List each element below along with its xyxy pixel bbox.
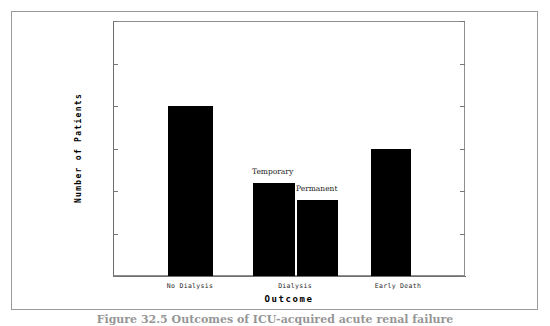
y-axis-title: Number of Patients bbox=[74, 93, 83, 203]
y-tick-mark bbox=[113, 234, 118, 235]
bar-no-dialysis bbox=[168, 106, 213, 276]
annotation-permanent: Permanent bbox=[296, 184, 337, 193]
x-tick-label-dialysis: Dialysis bbox=[278, 282, 312, 290]
x-axis-title: Outcome bbox=[264, 294, 313, 304]
bar-early-death bbox=[371, 149, 411, 277]
y-tick-mark bbox=[113, 276, 118, 277]
y-tick-mark bbox=[113, 21, 118, 22]
y-tick-mark bbox=[113, 64, 118, 65]
figure-caption: Figure 32.5 Outcomes of ICU-acquired acu… bbox=[97, 313, 454, 326]
y-tick-mark-right bbox=[460, 234, 465, 235]
x-tick-label-no-dialysis: No Dialysis bbox=[167, 282, 213, 290]
y-tick-mark-right bbox=[460, 21, 465, 22]
x-axis-line bbox=[113, 276, 466, 277]
y-tick-mark-right bbox=[460, 106, 465, 107]
y-tick-mark bbox=[113, 191, 118, 192]
bar-dialysis-temporary bbox=[253, 183, 295, 277]
y-tick-mark-right bbox=[460, 64, 465, 65]
bar-dialysis-permanent bbox=[297, 200, 338, 277]
annotation-temporary: Temporary bbox=[252, 167, 293, 176]
y-tick-mark bbox=[113, 149, 118, 150]
y-tick-mark-right bbox=[460, 191, 465, 192]
y-tick-mark-right bbox=[460, 276, 465, 277]
y-tick-mark bbox=[113, 106, 118, 107]
y-tick-mark-right bbox=[460, 149, 465, 150]
x-tick-label-early-death: Early Death bbox=[375, 282, 421, 290]
